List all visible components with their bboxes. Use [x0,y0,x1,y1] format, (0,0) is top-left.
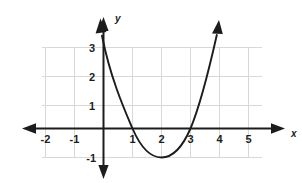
y-axis-bottom-arrowhead [98,165,108,179]
x-tick-label--2: -2 [41,133,51,145]
x-tick-label-4: 4 [216,133,223,145]
x-tick-label-1: 1 [129,133,135,145]
parabola-right-arrowhead [212,20,223,34]
x-tick-label-2: 2 [158,133,164,145]
x-axis-label: x [290,128,297,139]
y-tick-label-1: 1 [89,100,95,112]
x-tick-label-3: 3 [187,133,193,145]
x-tick-label-5: 5 [245,133,251,145]
x-tick-label--1: -1 [70,133,80,145]
y-tick-label-3: 3 [89,42,95,54]
y-axis-label: y [114,13,121,24]
coordinate-plane-figure: -2 -1 1 2 3 4 5 3 2 1 -1 y x [0,0,302,183]
x-axis-right-arrowhead [271,123,285,134]
y-tick-label-2: 2 [89,71,95,83]
y-tick-label--1: -1 [86,152,96,164]
graph-screenshot: -2 -1 1 2 3 4 5 3 2 1 -1 y x [0,0,302,183]
x-axis-left-arrowhead [22,123,36,134]
